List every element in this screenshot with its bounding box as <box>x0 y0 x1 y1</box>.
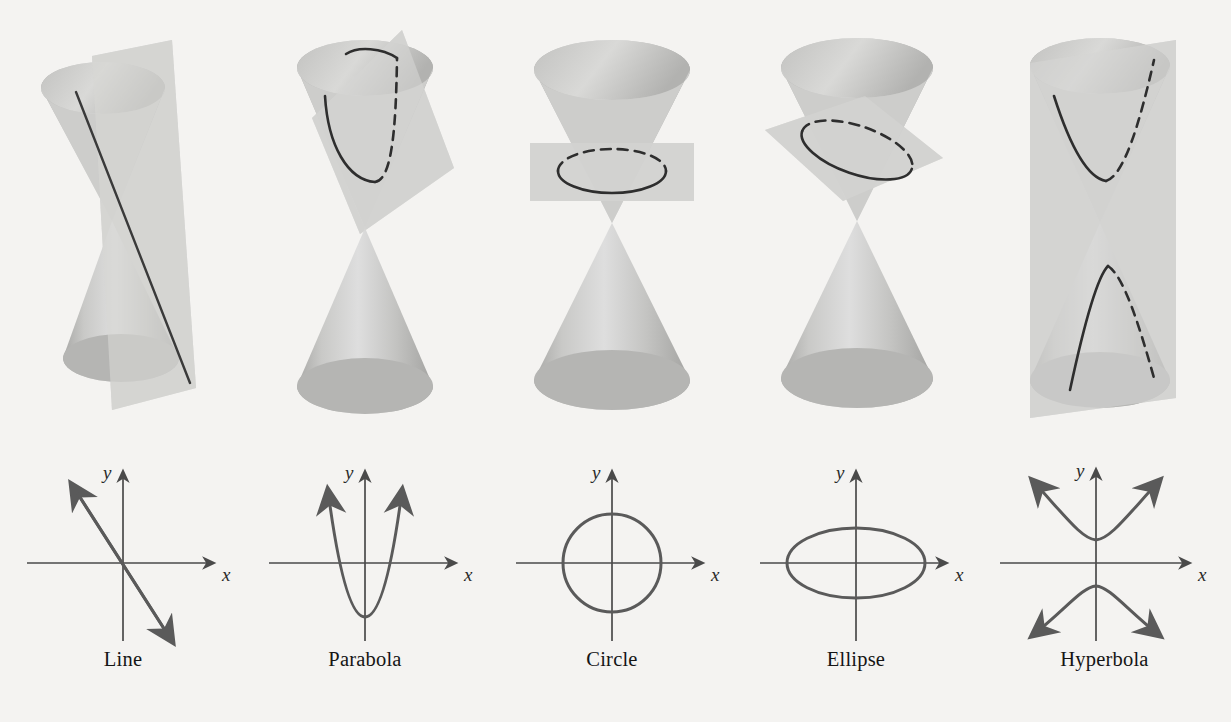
graph-hyperbola: x y <box>978 445 1231 645</box>
caption-hyperbola: Hyperbola <box>978 648 1231 671</box>
graph-line: x y <box>0 445 246 645</box>
cone-diagram-ellipse <box>733 18 979 438</box>
panel-line: x y Line <box>0 0 246 722</box>
conic-curve-hyperbola-upper-right <box>1096 481 1159 540</box>
caption-ellipse: Ellipse <box>733 648 979 671</box>
y-axis-label: y <box>590 462 601 483</box>
cone-lower-rim <box>297 358 433 414</box>
panel-parabola: x y Parabola <box>242 0 488 722</box>
graph-parabola: x y <box>242 445 488 645</box>
x-axis-label: x <box>1197 564 1207 585</box>
cone-diagram-hyperbola <box>978 18 1231 438</box>
y-axis-label: y <box>1074 460 1085 481</box>
conic-curve-hyperbola-lower-right <box>1096 586 1159 635</box>
cone-upper-rim <box>534 40 690 100</box>
x-axis-label: x <box>463 564 473 585</box>
cutting-plane-tilted-front <box>765 96 943 201</box>
graph-ellipse: x y <box>733 445 979 645</box>
y-axis-label: y <box>343 462 354 483</box>
panel-circle: x y Circle <box>489 0 735 722</box>
x-axis-label: x <box>221 564 231 585</box>
panel-ellipse: x y Ellipse <box>733 0 979 722</box>
cone-upper-rim <box>781 38 933 98</box>
panel-hyperbola: x y Hyperbola <box>978 0 1231 722</box>
cone-diagram-parabola <box>242 18 488 438</box>
conic-curve-hyperbola-upper-left <box>1033 481 1096 540</box>
conic-curve-parabola-left <box>328 491 365 617</box>
conic-curve-line-lower <box>78 494 172 641</box>
y-axis-label: y <box>834 462 845 483</box>
caption-circle: Circle <box>489 648 735 671</box>
conic-curve-parabola-right <box>365 491 402 617</box>
x-axis-label: x <box>954 564 964 585</box>
cone-lower-rim <box>781 348 933 408</box>
conic-sections-figure: x y Line <box>0 0 1231 722</box>
conic-curve-hyperbola-lower-left <box>1033 586 1096 635</box>
caption-line: Line <box>0 648 246 671</box>
y-axis-label: y <box>101 462 112 483</box>
cone-diagram-circle <box>489 18 735 438</box>
graph-circle: x y <box>489 445 735 645</box>
cone-diagram-line <box>0 18 246 438</box>
cutting-plane-vertical-front <box>1030 40 1176 418</box>
cone-lower-rim <box>534 350 690 410</box>
x-axis-label: x <box>710 564 720 585</box>
caption-parabola: Parabola <box>242 648 488 671</box>
